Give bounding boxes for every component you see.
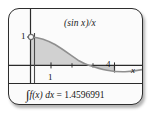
integrand-label: f(x) — [30, 90, 43, 100]
differential-label: dx — [45, 90, 54, 100]
integral-result-text: ∫f(x) dx = 1.4596991 — [26, 88, 105, 101]
x-tick-label-4: 4 — [106, 60, 111, 69]
x-tick-label-1: 1 — [48, 73, 53, 82]
x-axis-name-label: x — [131, 66, 135, 75]
calculator-screen: (sin x)/x 1 1 4 x ∫f(x) dx = 1.4596991 — [8, 8, 143, 105]
equals-sign: = — [56, 90, 61, 100]
point-marker-origin-value — [28, 34, 33, 39]
plot-area: (sin x)/x 1 1 4 x — [9, 9, 142, 83]
function-label: (sin x)/x — [64, 19, 96, 29]
calculator-screenshot: (sin x)/x 1 1 4 x ∫f(x) dx = 1.4596991 — [0, 0, 154, 115]
y-tick-label-1: 1 — [21, 32, 26, 41]
integral-result-row: ∫f(x) dx = 1.4596991 — [9, 84, 142, 104]
integral-value: 1.4596991 — [64, 90, 104, 100]
